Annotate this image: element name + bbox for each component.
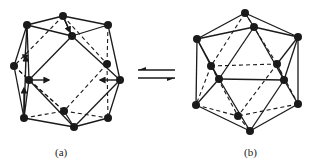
atom-node [70, 123, 78, 131]
left-half-arrow-icon [138, 67, 146, 70]
solid-edge [219, 79, 284, 80]
atom-node [215, 75, 223, 83]
atom-node [103, 60, 111, 68]
atom-node [193, 35, 201, 43]
solid-edge [14, 66, 24, 118]
structure-b-icosahedron [192, 9, 302, 135]
diagram-canvas [0, 0, 313, 167]
dashed-edge [238, 64, 277, 116]
atom-node [294, 33, 302, 41]
dashed-edge [196, 105, 238, 116]
solid-edge [197, 13, 245, 39]
atom-node [192, 101, 200, 109]
atom-node [104, 114, 112, 122]
dashed-edge [196, 66, 211, 105]
solid-edge [250, 104, 298, 131]
solid-edge [72, 25, 108, 36]
solid-edge [254, 27, 298, 37]
atom-node [104, 21, 112, 29]
atom-node [116, 76, 124, 84]
solid-edge [284, 80, 298, 104]
dashed-edge [107, 64, 108, 118]
dashed-edge [211, 13, 245, 66]
atom-node [23, 21, 31, 29]
solid-edge [196, 39, 197, 105]
atom-node [68, 32, 76, 40]
atom-node [25, 76, 33, 84]
atom-node [273, 60, 281, 68]
atom-node [280, 76, 288, 84]
dashed-edge [238, 104, 298, 116]
atom-node [234, 112, 242, 120]
solid-edge [27, 25, 72, 36]
solid-edge [27, 16, 63, 25]
atom-node [10, 62, 18, 70]
equilibrium-arrows-icon [138, 67, 175, 81]
dashed-edge [24, 111, 64, 118]
solid-edge [254, 27, 284, 80]
solid-edge [284, 37, 298, 80]
atom-node [59, 12, 67, 20]
solid-edge [108, 25, 120, 80]
solid-edge [277, 37, 298, 64]
dashed-edge [211, 64, 277, 66]
solid-edge [250, 80, 284, 131]
label-b: (b) [244, 146, 257, 158]
atom-node [241, 9, 249, 17]
solid-edge [197, 27, 254, 39]
right-half-arrow-icon [167, 78, 175, 81]
dashed-edge [107, 25, 108, 64]
solid-edge [72, 36, 120, 80]
label-a: (a) [55, 146, 67, 158]
dashed-edge [64, 64, 107, 111]
atom-node [20, 114, 28, 122]
atom-node [294, 100, 302, 108]
structure-a-cuboctahedron [10, 12, 124, 131]
solid-edge [196, 79, 219, 105]
solid-edge [29, 36, 72, 80]
atom-node [246, 127, 254, 135]
solid-edge [197, 39, 211, 66]
atom-node [250, 23, 258, 31]
atom-node [60, 107, 68, 115]
atom-node [207, 62, 215, 70]
solid-edge [219, 27, 254, 79]
